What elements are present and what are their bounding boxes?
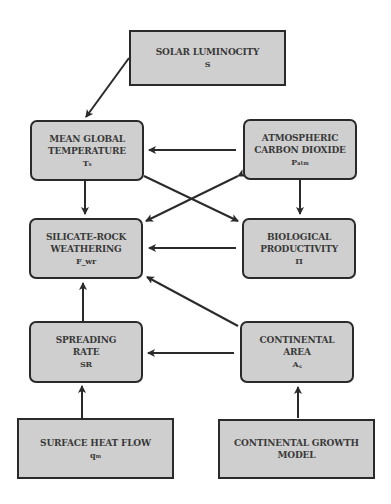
node-label: MODEL bbox=[278, 449, 316, 461]
node-symbol: Tₛ bbox=[83, 157, 92, 169]
node-label: TEMPERATURE bbox=[48, 145, 126, 157]
node-label: SURFACE HEAT FLOW bbox=[40, 437, 151, 449]
node-continental-area: CONTINENTAL AREA A꜀ bbox=[240, 321, 354, 383]
node-label: SILICATE-ROCK bbox=[46, 231, 126, 243]
node-symbol: Π bbox=[295, 255, 302, 267]
node-symbol: S bbox=[205, 58, 211, 70]
node-label: AREA bbox=[283, 346, 311, 358]
node-symbol: SR bbox=[80, 358, 92, 370]
node-label: SPREADING bbox=[56, 334, 117, 346]
node-label: ATMOSPHERIC bbox=[262, 132, 338, 144]
node-label: WEATHERING bbox=[50, 243, 121, 255]
node-label: PRODUCTIVITY bbox=[260, 243, 338, 255]
node-symbol: A꜀ bbox=[293, 358, 302, 370]
node-mean-global-temperature: MEAN GLOBAL TEMPERATURE Tₛ bbox=[30, 120, 144, 181]
node-label: CONTINENTAL GROWTH bbox=[234, 437, 359, 449]
node-surface-heat-flow: SURFACE HEAT FLOW qₘ bbox=[17, 418, 174, 479]
node-label: SOLAR LUMINOCITY bbox=[156, 46, 259, 58]
node-biological-productivity: BIOLOGICAL PRODUCTIVITY Π bbox=[242, 218, 356, 279]
node-label: BIOLOGICAL bbox=[267, 231, 331, 243]
node-label: MEAN GLOBAL bbox=[49, 133, 125, 145]
node-label: CONTINENTAL bbox=[260, 334, 335, 346]
edge-solar-temperature bbox=[86, 58, 129, 117]
node-label: CARBON DIOXIDE bbox=[254, 144, 345, 156]
node-spreading-rate: SPREADING RATE SR bbox=[29, 321, 143, 383]
edge-area-weathering bbox=[147, 277, 238, 326]
node-continental-growth-model: CONTINENTAL GROWTH MODEL bbox=[218, 419, 375, 479]
node-silicate-weathering: SILICATE-ROCK WEATHERING F_wr bbox=[29, 218, 143, 279]
node-label: RATE bbox=[73, 346, 100, 358]
node-atmospheric-co2: ATMOSPHERIC CARBON DIOXIDE Pₐₜₘ bbox=[243, 119, 357, 180]
node-symbol: F_wr bbox=[76, 255, 96, 267]
node-solar-luminosity: SOLAR LUMINOCITY S bbox=[129, 30, 286, 86]
node-symbol: Pₐₜₘ bbox=[291, 156, 309, 168]
node-symbol: qₘ bbox=[90, 449, 101, 461]
